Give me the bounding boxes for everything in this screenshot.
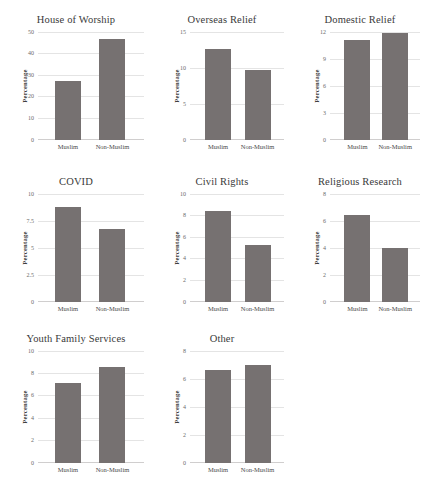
bar-civil-rights-non-muslim [245, 245, 271, 301]
plot-canvas-other [190, 351, 284, 463]
y-tick-label: 5 [183, 101, 186, 107]
x-tick-label: Non-Muslim [96, 305, 130, 312]
y-tick-label: 10 [180, 65, 186, 71]
bars-group-domestic-relief [330, 32, 420, 140]
chart-panel-civil-rights: Civil RightsPercentage0246810MuslimNon-M… [152, 168, 292, 323]
plot-canvas-youth-family-services [38, 351, 144, 463]
x-tick-label: Muslim [58, 305, 78, 312]
x-tick-label: Muslim [347, 143, 367, 150]
x-tick-label: Non-Muslim [378, 305, 412, 312]
x-tick-label: Non-Muslim [378, 143, 412, 150]
x-axis-labels-house-of-worship: MuslimNon-Muslim [38, 140, 144, 154]
y-tick-label: 8 [183, 212, 186, 218]
y-tick-label: 2 [31, 437, 34, 443]
bar-religious-research-muslim [344, 215, 370, 301]
x-tick-label: Non-Muslim [96, 466, 130, 473]
y-tick-label: 8 [323, 191, 326, 197]
y-axis-ticks-youth-family-services: 0246810 [14, 351, 34, 463]
y-tick-label: 0 [31, 137, 34, 143]
y-tick-label: 2 [183, 432, 186, 438]
plot-canvas-domestic-relief [330, 32, 420, 140]
y-tick-label: 10 [180, 191, 186, 197]
x-axis-labels-religious-research: MuslimNon-Muslim [330, 302, 420, 316]
y-tick-label: 4 [323, 245, 326, 251]
plot-canvas-civil-rights [190, 194, 284, 302]
chart-title-covid: COVID [0, 168, 152, 188]
bar-civil-rights-muslim [205, 211, 231, 302]
bar-house-of-worship-muslim [55, 81, 81, 139]
y-tick-label: 2 [183, 277, 186, 283]
x-axis-labels-overseas-relief: MuslimNon-Muslim [190, 140, 284, 154]
y-tick-label: 5 [31, 245, 34, 251]
x-axis-labels-civil-rights: MuslimNon-Muslim [190, 302, 284, 316]
y-tick-label: 20 [28, 93, 34, 99]
y-tick-label: 0 [183, 299, 186, 305]
bars-group-religious-research [330, 194, 420, 302]
bars-group-overseas-relief [190, 32, 284, 140]
y-tick-label: 10 [28, 191, 34, 197]
bar-youth-family-services-muslim [55, 383, 81, 463]
chart-title-overseas-relief: Overseas Relief [152, 0, 292, 26]
y-axis-ticks-domestic-relief: 036912 [306, 32, 326, 140]
bar-overseas-relief-muslim [205, 49, 231, 140]
y-tick-label: 6 [323, 218, 326, 224]
y-axis-ticks-religious-research: 02468 [306, 194, 326, 302]
chart-grid: House of WorshipPercentage01020304050Mus… [0, 0, 428, 502]
bar-other-non-muslim [245, 365, 271, 463]
bar-religious-research-non-muslim [382, 248, 408, 301]
x-tick-label: Muslim [208, 143, 228, 150]
y-tick-label: 9 [323, 56, 326, 62]
x-tick-label: Muslim [208, 305, 228, 312]
chart-title-other: Other [152, 323, 292, 345]
bar-other-muslim [205, 370, 231, 462]
bar-house-of-worship-non-muslim [99, 39, 125, 139]
x-tick-label: Non-Muslim [241, 143, 275, 150]
plot-area-religious-research: Percentage02468 [292, 194, 428, 302]
x-axis-labels-covid: MuslimNon-Muslim [38, 302, 144, 316]
y-tick-label: 12 [320, 29, 326, 35]
y-tick-label: 4 [183, 404, 186, 410]
y-tick-label: 6 [31, 392, 34, 398]
y-axis-ticks-house-of-worship: 01020304050 [14, 32, 34, 140]
y-tick-label: 8 [31, 370, 34, 376]
y-tick-label: 8 [183, 348, 186, 354]
bar-overseas-relief-non-muslim [245, 70, 271, 140]
y-tick-label: 10 [28, 348, 34, 354]
plot-canvas-overseas-relief [190, 32, 284, 140]
y-tick-label: 15 [180, 29, 186, 35]
bars-group-youth-family-services [38, 351, 144, 463]
y-tick-label: 6 [183, 376, 186, 382]
plot-area-civil-rights: Percentage0246810 [152, 194, 292, 302]
chart-panel-other: OtherPercentage02468MuslimNon-Muslim [152, 323, 292, 502]
chart-panel-domestic-relief: Domestic ReliefPercentage036912MuslimNon… [292, 0, 428, 168]
plot-area-overseas-relief: Percentage051015 [152, 32, 292, 140]
plot-area-youth-family-services: Percentage0246810 [0, 351, 152, 463]
y-tick-label: 0 [323, 299, 326, 305]
chart-title-civil-rights: Civil Rights [152, 168, 292, 188]
x-axis-labels-youth-family-services: MuslimNon-Muslim [38, 463, 144, 477]
y-tick-label: 7.5 [27, 218, 35, 224]
plot-area-domestic-relief: Percentage036912 [292, 32, 428, 140]
bars-group-covid [38, 194, 144, 302]
bar-domestic-relief-muslim [344, 40, 370, 140]
y-tick-label: 6 [183, 234, 186, 240]
x-axis-labels-other: MuslimNon-Muslim [190, 463, 284, 477]
bar-domestic-relief-non-muslim [382, 33, 408, 139]
y-axis-ticks-civil-rights: 0246810 [166, 194, 186, 302]
plot-canvas-religious-research [330, 194, 420, 302]
y-axis-ticks-other: 02468 [166, 351, 186, 463]
y-tick-label: 0 [31, 299, 34, 305]
chart-panel-house-of-worship: House of WorshipPercentage01020304050Mus… [0, 0, 152, 168]
y-tick-label: 2 [323, 272, 326, 278]
x-tick-label: Muslim [58, 466, 78, 473]
y-tick-label: 10 [28, 115, 34, 121]
chart-title-youth-family-services: Youth Family Services [0, 323, 152, 345]
x-tick-label: Muslim [347, 305, 367, 312]
plot-area-house-of-worship: Percentage01020304050 [0, 32, 152, 140]
bars-group-other [190, 351, 284, 463]
x-tick-label: Non-Muslim [96, 143, 130, 150]
bar-covid-muslim [55, 207, 81, 302]
y-tick-label: 0 [31, 460, 34, 466]
y-tick-label: 6 [323, 83, 326, 89]
x-tick-label: Non-Muslim [241, 466, 275, 473]
